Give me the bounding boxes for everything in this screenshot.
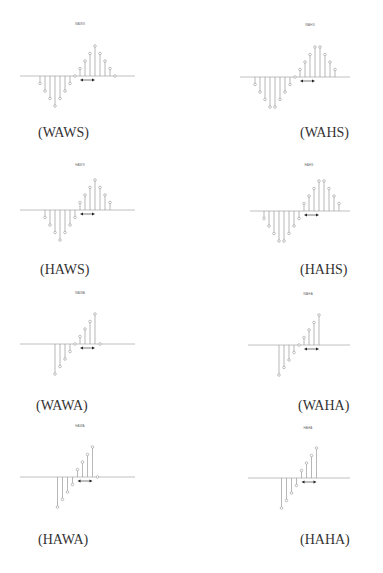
stem-marker <box>114 75 117 78</box>
stem-marker <box>318 314 321 317</box>
stem-marker <box>283 366 286 369</box>
stem-marker <box>288 359 291 362</box>
stem-marker <box>99 186 102 189</box>
stem-marker <box>84 194 87 197</box>
panel-caption: (WAHS) <box>300 125 349 141</box>
stem-marker <box>104 194 107 197</box>
double-arrow-icon <box>304 348 319 351</box>
stem-marker <box>293 225 296 228</box>
stem-marker <box>294 76 297 79</box>
stem-marker <box>304 61 307 64</box>
stem-plot <box>228 423 353 523</box>
stem-marker <box>99 343 102 346</box>
stem-marker <box>329 61 332 64</box>
panel-wawa: WAWA (WAWA) <box>18 290 168 420</box>
stem-marker <box>285 499 288 502</box>
stem-marker <box>313 321 316 324</box>
stem-marker <box>314 46 317 49</box>
stem-marker <box>59 365 62 368</box>
stem-marker <box>64 358 67 361</box>
stem-marker <box>283 240 286 243</box>
stem-plot <box>228 12 353 112</box>
stem-marker <box>69 224 72 227</box>
stem-marker <box>279 98 282 101</box>
stem-marker <box>280 507 283 510</box>
double-arrow-icon <box>80 213 95 216</box>
panel-caption: (HAHS) <box>300 262 347 278</box>
stem-marker <box>109 201 112 204</box>
panel-wahs: WAHS (WAHS) <box>228 12 378 152</box>
stem-plot <box>18 160 138 260</box>
stem-marker <box>89 320 92 323</box>
stem-marker <box>298 344 301 347</box>
panel-caption: (HAWS) <box>40 262 89 278</box>
panel-caption: (WAHA) <box>298 398 349 414</box>
stem-marker <box>274 106 277 109</box>
stem-marker <box>305 462 308 465</box>
panel-caption: (HAHA) <box>300 532 350 548</box>
stem-marker <box>89 52 92 55</box>
stem-marker <box>39 82 42 85</box>
stem-marker <box>94 313 97 316</box>
stem-marker <box>49 224 52 227</box>
stem-marker <box>308 195 311 198</box>
stem-marker <box>333 195 336 198</box>
stem-marker <box>334 68 337 71</box>
stem-marker <box>91 446 94 449</box>
double-arrow-icon <box>78 480 93 483</box>
stem-marker <box>264 98 267 101</box>
stem-marker <box>54 105 57 108</box>
stem-marker <box>300 469 303 472</box>
stem-plot <box>18 423 138 523</box>
stem-marker <box>288 232 291 235</box>
stem-marker <box>290 492 293 495</box>
stem-marker <box>64 231 67 234</box>
stem-marker <box>94 179 97 182</box>
stem-marker <box>254 83 257 86</box>
panel-caption: (WAWA) <box>36 398 88 414</box>
panel-hahs: HAHS (HAHS) <box>228 160 378 290</box>
stem-marker <box>259 91 262 94</box>
stem-marker <box>56 506 59 509</box>
stem-marker <box>299 68 302 71</box>
stem-marker <box>81 461 84 464</box>
stem-marker <box>278 240 281 243</box>
stem-marker <box>338 202 341 205</box>
stem-marker <box>269 106 272 109</box>
stem-plot <box>18 12 138 112</box>
stem-marker <box>54 231 57 234</box>
stem-marker <box>76 468 79 471</box>
stem-marker <box>303 336 306 339</box>
stem-marker <box>64 90 67 93</box>
panel-caption: (WAWS) <box>38 125 89 141</box>
stem-marker <box>308 329 311 332</box>
stem-plot <box>228 290 353 390</box>
stem-marker <box>315 447 318 450</box>
stem-marker <box>328 187 331 190</box>
stem-plot <box>228 160 353 260</box>
stem-marker <box>44 90 47 93</box>
panel-haha: HAHA (HAHA) <box>228 423 378 553</box>
stem-marker <box>94 45 97 48</box>
panel-waha: WAHA (WAHA) <box>228 290 378 420</box>
stem-marker <box>293 351 296 354</box>
stem-marker <box>263 217 266 220</box>
stem-marker <box>54 373 57 376</box>
stem-plot <box>18 290 138 390</box>
stem-marker <box>44 216 47 219</box>
stem-marker <box>66 491 69 494</box>
stem-marker <box>79 335 82 338</box>
stem-marker <box>59 239 62 242</box>
double-arrow-icon <box>80 347 95 350</box>
stem-marker <box>313 187 316 190</box>
double-arrow-icon <box>304 214 319 217</box>
stem-marker <box>278 374 281 377</box>
stem-marker <box>49 97 52 100</box>
panel-caption: (HAWA) <box>38 532 88 548</box>
stem-marker <box>295 484 298 487</box>
double-arrow-icon <box>80 79 95 82</box>
stem-marker <box>309 53 312 56</box>
stem-marker <box>74 75 77 78</box>
stem-marker <box>323 180 326 183</box>
stem-marker <box>84 328 87 331</box>
